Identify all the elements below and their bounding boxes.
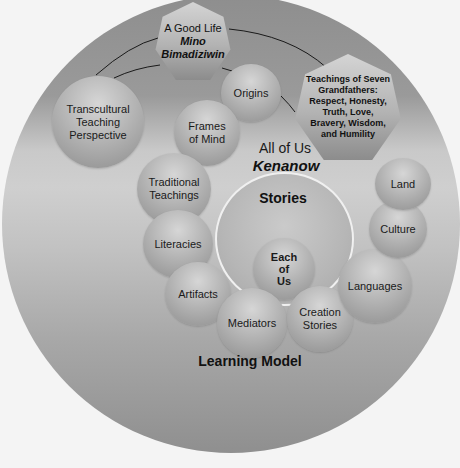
languages-node: Languages: [338, 249, 412, 323]
teaching-label: Teaching: [66, 116, 129, 129]
seven-line-1: Teachings of Seven: [306, 74, 390, 85]
good-life-label: A Good Life: [164, 22, 222, 35]
perspective-label: Perspective: [66, 129, 129, 142]
kenanow-label: Kenanow: [246, 157, 326, 174]
land-node: Land: [375, 158, 431, 210]
land-label: Land: [391, 178, 415, 191]
seven-line-4: Truth, Love,: [322, 107, 373, 118]
transcultural-label: Transcultural: [66, 103, 129, 116]
stories-sub-label: Stories: [299, 319, 341, 332]
bimadiziwin-label: Bimadiziwin: [161, 48, 225, 61]
mediators-node: Mediators: [217, 288, 287, 358]
teachings-label: Teachings: [149, 189, 200, 202]
artifacts-label: Artifacts: [178, 288, 218, 301]
culture-label: Culture: [380, 223, 415, 236]
seven-line-2: Grandfathers:: [318, 85, 378, 96]
of-label: of: [271, 263, 297, 275]
origins-label: Origins: [234, 87, 269, 100]
us-label: Us: [271, 275, 297, 287]
literacies-label: Literacies: [154, 238, 201, 251]
creation-label: Creation: [299, 306, 341, 319]
mino-label: Mino: [180, 35, 206, 48]
seven-line-3: Respect, Honesty,: [309, 96, 386, 107]
mediators-label: Mediators: [228, 317, 276, 330]
learning-model-title: Learning Model: [190, 353, 310, 369]
frames-label: Frames: [188, 120, 225, 133]
transcultural-teaching-node: Transcultural Teaching Perspective: [52, 76, 144, 168]
seven-line-6: and Humility: [321, 129, 375, 140]
seven-line-5: Bravery, Wisdom,: [310, 118, 385, 129]
languages-label: Languages: [348, 280, 402, 293]
each-label: Each: [271, 251, 297, 263]
traditional-label: Traditional: [149, 176, 200, 189]
of-mind-label: of Mind: [188, 133, 225, 146]
all-of-us-label: All of Us: [250, 140, 320, 156]
stories-label: Stories: [250, 190, 316, 206]
